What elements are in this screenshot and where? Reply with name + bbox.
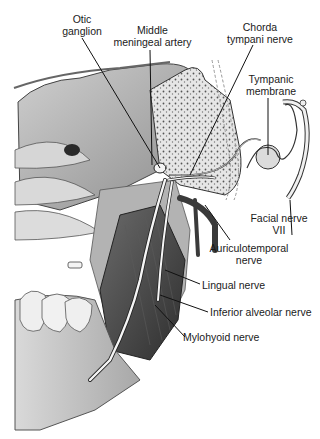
label-inferior-alveolar-nerve: Inferior alveolar nerve (210, 306, 312, 318)
anatomy-figure: Otic ganglion Middle meningeal artery Ch… (0, 0, 320, 439)
label-tympanic-membrane: Tympanic membrane (243, 73, 299, 97)
label-line: Mylohyoid nerve (183, 331, 259, 343)
label-line: meningeal artery (110, 36, 195, 48)
label-line: Tympanic (243, 73, 299, 85)
label-mylohyoid-nerve: Mylohyoid nerve (183, 331, 259, 343)
label-middle-meningeal-artery: Middle meningeal artery (110, 24, 195, 48)
label-line: Facial nerve (250, 212, 308, 224)
label-line: membrane (243, 85, 299, 97)
label-auriculotemporal-nerve: Auriculotemporal nerve (208, 242, 290, 266)
label-line: Lingual nerve (202, 279, 265, 291)
tympanic-membrane-structure (247, 100, 307, 198)
label-line: tympani nerve (220, 33, 300, 45)
label-lingual-nerve: Lingual nerve (202, 279, 265, 291)
label-line: VII (250, 224, 308, 236)
label-line: Chorda (220, 21, 300, 33)
label-otic-ganglion: Otic ganglion (52, 13, 112, 37)
label-line: Middle (110, 24, 195, 36)
label-line: Auriculotemporal (208, 242, 290, 254)
label-facial-nerve: Facial nerve VII (250, 212, 308, 236)
label-line: Inferior alveolar nerve (210, 306, 312, 318)
label-line: ganglion (52, 25, 112, 37)
label-line: nerve (208, 254, 290, 266)
label-chorda-tympani-nerve: Chorda tympani nerve (220, 21, 300, 45)
label-line: Otic (52, 13, 112, 25)
